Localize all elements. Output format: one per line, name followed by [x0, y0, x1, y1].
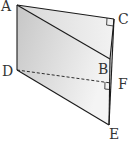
label-a: A: [0, 0, 12, 14]
label-d: D: [2, 63, 13, 79]
label-f: F: [118, 76, 128, 92]
label-b: B: [98, 61, 108, 77]
label-c: C: [118, 11, 129, 27]
label-e: E: [109, 126, 119, 141]
prism-diagram: A C B D F E: [0, 0, 135, 141]
